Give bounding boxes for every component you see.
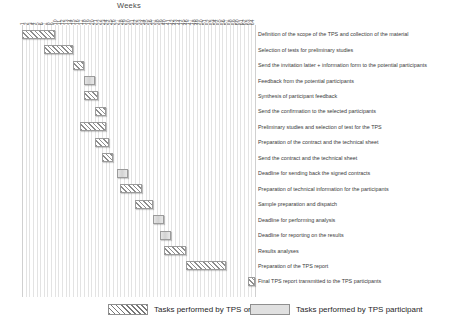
task-label: Deadline for sending back the signed con… [258,171,370,176]
task-label: Preliminary studies and selection of tes… [258,125,382,130]
task-label: Deadline for reporting on the results [258,233,344,238]
legend-swatch-organiser [108,304,148,315]
gantt-bar [120,184,142,193]
task-label: Deadline for performing analysis [258,218,335,223]
gantt-bar [84,76,95,85]
task-label-list: Definition of the scope of the TPS and c… [258,25,458,297]
gantt-bar [84,91,99,100]
task-label: Results analyses [258,249,299,254]
gantt-bar [186,261,226,270]
task-label: Send the contract and the technical shee… [258,156,357,161]
gantt-bar [160,231,171,240]
task-label: Synthesis of participant feedback [258,94,337,99]
legend: Tasks performed by TPS organiser Tasks p… [0,300,458,322]
gantt-bar [248,277,255,286]
gantt-bar [117,169,128,178]
gridline-week-65 [255,25,256,297]
week-axis-ticks: 1234567891011121314151617181920212223242… [22,9,255,25]
gantt-bar [164,246,186,255]
gantt-bar [22,30,55,39]
gantt-bar [95,138,110,147]
legend-label-participant: Tasks performed by TPS participant [296,304,423,315]
plot-area [22,25,255,297]
task-label: Sample preparation and dispatch [258,202,337,207]
gantt-bars [22,25,255,297]
gantt-bar [102,153,113,162]
task-label: Preparation of technical information for… [258,187,389,192]
task-label: Definition of the scope of the TPS and c… [258,32,408,37]
gantt-bar [135,200,153,209]
gantt-bar [95,107,106,116]
gantt-bar [153,215,164,224]
task-label: Final TPS report transmitted to the TPS … [258,279,381,284]
task-label: Selection of tests for preliminary studi… [258,48,353,53]
gantt-bar [80,122,105,131]
task-label: Preparation of the contract and the tech… [258,140,378,145]
gantt-chart: Weeks 1234567891011121314151617181920212… [0,0,458,325]
task-label: Preparation of the TPS report [258,264,328,269]
task-label: Send the invitation latter + information… [258,63,427,68]
legend-swatch-participant [250,304,290,315]
task-label: Feedback from the potential participants [258,79,354,84]
task-label: Send the confirmation to the selected pa… [258,109,376,114]
gantt-bar [73,61,84,70]
gantt-bar [44,45,73,54]
